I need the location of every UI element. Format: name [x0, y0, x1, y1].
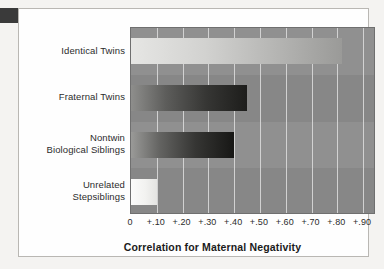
y-axis-label-3: NontwinBiological Siblings — [47, 132, 125, 155]
y-axis-label-1: Identical Twins — [61, 45, 125, 57]
y-axis-label-line: Biological Siblings — [47, 144, 125, 156]
bar — [131, 132, 234, 158]
plot-area — [130, 27, 375, 214]
x-tick-0: 0 — [127, 217, 132, 227]
x-tick-+.40: +.40 — [224, 217, 242, 227]
y-axis-label-2: Fraternal Twins — [59, 91, 125, 103]
y-axis-label-4: UnrelatedStepsiblings — [73, 179, 125, 202]
bar — [131, 38, 342, 64]
x-tick-+.60: +.60 — [276, 217, 294, 227]
corner-decoration-block — [0, 8, 19, 23]
x-tick-+.90: +.90 — [353, 217, 371, 227]
gridline-+.90 — [363, 28, 364, 213]
x-tick-+.30: +.30 — [198, 217, 216, 227]
y-axis-label-line: Stepsiblings — [73, 191, 125, 203]
x-tick-+.20: +.20 — [172, 217, 190, 227]
x-axis-tick-labels: 0+.10+.20+.30+.40+.50+.60+.70+.80+.90 — [130, 217, 375, 231]
x-tick-+.80: +.80 — [327, 217, 345, 227]
x-tick-+.70: +.70 — [301, 217, 319, 227]
x-tick-+.50: +.50 — [250, 217, 268, 227]
x-tick-+.10: +.10 — [147, 217, 165, 227]
bar — [131, 85, 247, 111]
x-axis-title: Correlation for Maternal Negativity — [38, 241, 384, 253]
y-axis-label-line: Fraternal Twins — [59, 91, 125, 103]
y-axis-label-line: Nontwin — [47, 132, 125, 144]
figure-frame: Identical TwinsFraternal TwinsNontwinBio… — [18, 8, 369, 257]
y-axis-label-line: Unrelated — [73, 179, 125, 191]
y-axis-labels: Identical TwinsFraternal TwinsNontwinBio… — [39, 27, 125, 214]
figure-container: Identical TwinsFraternal TwinsNontwinBio… — [0, 0, 384, 269]
bar — [131, 179, 157, 205]
y-axis-label-line: Identical Twins — [61, 45, 125, 57]
